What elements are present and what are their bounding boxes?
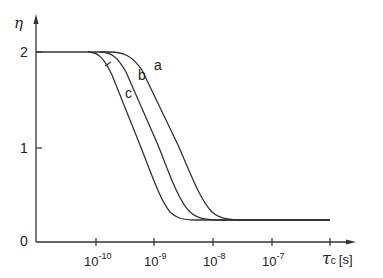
tick-base: 10	[84, 254, 98, 269]
x-label-subscript: c	[331, 255, 336, 266]
curve-a	[100, 52, 330, 220]
x-tick-label-1e-10: 10-10	[84, 255, 111, 268]
curve-label-b: b	[138, 68, 146, 82]
chart-canvas	[0, 0, 383, 278]
tick-exponent: -9	[158, 251, 166, 261]
curve-c	[88, 52, 330, 220]
x-axis-label: τc[s]	[322, 251, 353, 267]
curve-label-a: a	[154, 58, 162, 72]
y-tick-label-2: 2	[20, 45, 28, 59]
x-label-tau: τ	[322, 249, 331, 268]
curve-label-c: c	[125, 86, 132, 100]
y-axis-label: η	[14, 16, 23, 31]
x-tick-label-1e-8: 10-8	[203, 255, 225, 268]
y-tick-label-0: 0	[20, 234, 28, 248]
tick-base: 10	[203, 254, 217, 269]
x-label-unit: [s]	[339, 252, 353, 267]
tick-exponent: -7	[276, 251, 284, 261]
tick-exponent: -8	[217, 251, 225, 261]
x-axis-arrow-icon	[346, 240, 356, 245]
curve-b	[88, 52, 330, 220]
x-tick-label-1e-7: 10-7	[262, 255, 284, 268]
x-tick-label-1e-9: 10-9	[144, 255, 166, 268]
y-axis-arrow-icon	[34, 14, 39, 24]
tick-exponent: -10	[98, 251, 111, 261]
tick-base: 10	[144, 254, 158, 269]
y-tick-label-1: 1	[20, 141, 28, 155]
tick-base: 10	[262, 254, 276, 269]
